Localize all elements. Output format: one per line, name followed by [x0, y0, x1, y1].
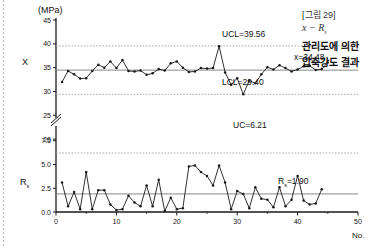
x-tick-label: 50 [354, 218, 362, 225]
rs-chart-data-point [308, 203, 311, 206]
x-tick-label: 0 [54, 218, 58, 225]
rs-chart-data-point [182, 207, 185, 210]
x-chart-data-point [170, 62, 173, 65]
y-tick-label-rs-chart: 0.0 [41, 209, 51, 216]
x-tick-label: 40 [294, 218, 302, 225]
x-chart-data-point [314, 69, 317, 72]
rs-chart-data-point [97, 189, 100, 192]
rs-chart-data-point [103, 189, 106, 192]
rs-chart-data-point [266, 198, 269, 201]
x-axis-title: No. [352, 232, 364, 240]
rs-chart-data-point [314, 202, 317, 205]
x-chart-data-point [139, 69, 142, 72]
rs-chart-data-point [321, 188, 324, 191]
x-chart-data-point [242, 93, 245, 96]
rs-chart-data-point [236, 190, 239, 193]
rs-chart-data-point [176, 208, 179, 211]
y-tick-label-rs-chart: 5.0 [41, 161, 51, 168]
x-chart-data-point [67, 70, 70, 73]
y-tick-label-x-chart: 40 [43, 40, 51, 47]
caption-symbol: x − Rs [302, 22, 326, 35]
rs-chart-data-point [139, 205, 142, 208]
rs-chart-data-point [218, 164, 221, 167]
x-chart-data-point [133, 70, 136, 73]
x-chart-data-point [157, 68, 160, 71]
rs-chart-data-point [290, 198, 293, 201]
x-chart-data-point [127, 70, 130, 73]
x-chart-data-point [109, 60, 112, 63]
rs-chart-data-point [73, 191, 76, 194]
rs-label-subscript: s [27, 183, 30, 189]
y-tick-label-rs-chart: 2.5 [41, 185, 51, 192]
rs-chart-data-point [91, 208, 94, 211]
x-chart-data-point [200, 67, 203, 70]
rs-chart-data-point [79, 208, 82, 211]
x-chart-data-point [188, 71, 191, 74]
x-chart-data-point [284, 67, 287, 70]
control-chart-figure: 4540353025200.02.55.07.501020304050 (MPa… [0, 0, 388, 246]
x-chart-data-point [91, 70, 94, 73]
x-chart-data-point [121, 59, 124, 62]
rs-chart-data-point [212, 184, 215, 187]
ucl-x-annotation: UCL=39.56 [222, 30, 265, 39]
x-chart-data-point [103, 66, 106, 69]
x-chart-data-point [176, 60, 179, 63]
x-chart-data-point [61, 81, 64, 84]
x-chart-data-point [194, 70, 197, 73]
caption-line-1: 관리도에 의한 [302, 38, 359, 53]
x-chart-data-point [206, 67, 209, 70]
x-chart-series-label: X [22, 58, 28, 67]
x-chart-data-point [79, 77, 82, 80]
rs-chart-data-point [157, 178, 160, 181]
rs-chart-data-point [248, 207, 251, 210]
x-tick-label: 10 [113, 218, 121, 225]
rs-chart-data-point [224, 181, 227, 184]
y-tick-label-x-chart: 25 [43, 112, 51, 119]
rs-chart-data-point [206, 175, 209, 178]
rs-center-value: =1.90 [287, 176, 309, 186]
rs-chart-data-point [67, 205, 70, 208]
rs-chart-data-point [61, 181, 64, 184]
rs-chart-data-point [85, 171, 88, 174]
rs-chart-data-point [188, 165, 191, 168]
x-tick-label: 20 [173, 218, 181, 225]
caption-symbol-subscript: s [324, 29, 326, 35]
x-chart-data-point [260, 73, 263, 76]
y-tick-label-rs-chart: 7.5 [41, 137, 51, 144]
rs-chart-data-point [284, 205, 287, 208]
rs-chart-data-line [62, 165, 322, 211]
y-tick-label-x-chart: 30 [43, 88, 51, 95]
rs-chart-data-point [230, 208, 233, 211]
y-tick-label-x-chart: 45 [43, 17, 51, 24]
rs-chart-data-point [151, 205, 154, 208]
rs-chart-data-point [121, 208, 124, 211]
x-chart-data-point [151, 72, 154, 75]
rs-chart-data-point [302, 199, 305, 202]
x-chart-data-point [182, 66, 185, 69]
rs-chart-data-point [242, 193, 245, 196]
x-chart-data-point [73, 73, 76, 76]
x-chart-data-point [85, 77, 88, 80]
rs-chart-data-point [200, 171, 203, 174]
rs-chart-data-point [260, 197, 263, 200]
x-chart-data-point [212, 67, 215, 70]
caption-symbol-base: x − R [302, 22, 324, 33]
x-chart-data-point [97, 64, 100, 67]
x-chart-data-point [272, 68, 275, 71]
rs-chart-data-point [194, 164, 197, 167]
y-tick-label-x-chart: 35 [43, 64, 51, 71]
y-axis-unit-label: (MPa) [38, 6, 63, 15]
uc-rs-annotation: UC=6.21 [233, 121, 267, 130]
x-chart-data-point [115, 67, 118, 70]
centerline-rs-annotation: Rs=1.90 [278, 177, 308, 188]
x-chart-data-point [290, 70, 293, 73]
rs-chart-data-point [109, 203, 112, 206]
rs-chart-data-point [272, 206, 275, 209]
rs-chart-data-point [145, 184, 148, 187]
lcl-x-annotation: LCL=29.40 [222, 78, 264, 87]
x-tick-label: 30 [233, 218, 241, 225]
caption-line-2: 압축강도 결과 [302, 54, 359, 69]
x-chart-data-point [278, 64, 281, 67]
rs-chart-series-label: Rs [20, 178, 29, 189]
x-chart-data-point [163, 69, 166, 72]
